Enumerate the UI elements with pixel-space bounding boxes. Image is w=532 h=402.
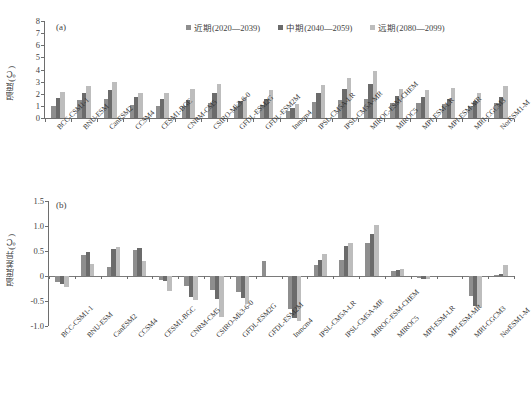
chart-panel-b: 温度差异(℃) (b) BCC-CSM1-1BNU-ESMCanESM2CCSM… <box>0 196 522 402</box>
bar-group <box>152 201 178 326</box>
y-tick-label: -0.5 <box>14 297 44 306</box>
x-tick-mark <box>101 276 102 279</box>
y-tick-label: 1.5 <box>14 197 44 206</box>
bar-group <box>306 21 332 118</box>
bar-segment <box>322 254 326 276</box>
bar <box>167 201 171 326</box>
bar <box>112 82 116 118</box>
x-tick-mark <box>385 276 386 279</box>
x-tick-mark <box>411 276 412 279</box>
y-axis-label-a: 温度(℃) <box>5 66 17 100</box>
bar-segment <box>193 276 197 300</box>
x-tick-mark <box>204 276 205 279</box>
x-tick-marks-b <box>49 276 514 279</box>
chart-panel-a: 温度(℃) (a) 近期(2020—2039)中期(2040—2059)远期(2… <box>0 18 522 168</box>
x-tick-mark <box>359 276 360 279</box>
y-tick-label: 4 <box>22 66 40 75</box>
y-tick-mark <box>41 45 44 46</box>
x-axis-labels-a: BCC-CSM1-1BNU-ESMCanESM2CCSM4CESM1-BGCCN… <box>45 123 514 168</box>
y-tick-label: 0.5 <box>14 247 44 256</box>
y-tick-mark <box>41 118 44 119</box>
y-tick-label: 6 <box>22 41 40 50</box>
bar-group <box>45 21 71 118</box>
bar-group <box>410 21 436 118</box>
bar-group <box>149 21 175 118</box>
bar <box>321 85 325 118</box>
bar <box>322 201 326 326</box>
y-tick-mark <box>45 326 48 327</box>
bar-segment <box>374 225 378 276</box>
y-tick-label: 0 <box>14 272 44 281</box>
bar <box>142 201 146 326</box>
x-tick-mark <box>488 276 489 279</box>
bar-segment <box>503 265 507 276</box>
bar-segment <box>116 247 120 276</box>
x-tick-mark <box>333 276 334 279</box>
clipped-header-text: ·· ···· ·· ··· ···· ·· ·· ·· ·· ·· <box>0 0 522 7</box>
x-tick-mark <box>256 276 257 279</box>
y-tick-label: 0 <box>22 114 40 123</box>
x-tick-mark <box>45 119 46 122</box>
y-tick-label: 3 <box>22 78 40 87</box>
x-tick-mark <box>462 276 463 279</box>
bar-segment <box>142 261 146 276</box>
bar <box>64 201 68 326</box>
y-tick-label: 8 <box>22 17 40 26</box>
y-tick-mark <box>45 301 48 302</box>
bar <box>217 84 221 118</box>
x-tick-mark <box>307 276 308 279</box>
bar-segment <box>348 243 352 276</box>
y-tick-label: -1.0 <box>14 322 44 331</box>
y-tick-mark <box>41 57 44 58</box>
y-tick-mark <box>45 201 48 202</box>
x-tick-mark <box>282 276 283 279</box>
plot-area-b <box>49 201 514 326</box>
x-tick-mark <box>514 276 515 279</box>
x-tick-mark <box>178 276 179 279</box>
y-tick-mark <box>41 21 44 22</box>
x-tick-mark <box>437 276 438 279</box>
x-tick-mark <box>49 276 50 279</box>
y-tick-label: 2 <box>22 90 40 99</box>
bar <box>219 201 223 326</box>
bar <box>426 201 430 326</box>
x-tick-mark <box>152 276 153 279</box>
x-tick-mark <box>75 276 76 279</box>
bar-group <box>101 201 127 326</box>
bar-group <box>127 201 153 326</box>
y-tick-mark <box>45 276 48 277</box>
x-tick-mark <box>230 276 231 279</box>
bar <box>116 201 120 326</box>
bar-segment <box>400 269 404 277</box>
bar-group <box>307 201 333 326</box>
y-tick-mark <box>41 82 44 83</box>
bar-group <box>49 201 75 326</box>
y-tick-mark <box>45 251 48 252</box>
y-tick-mark <box>45 226 48 227</box>
y-tick-label: 1.0 <box>14 222 44 231</box>
y-tick-mark <box>41 106 44 107</box>
bar-segment <box>90 264 94 276</box>
y-tick-label: 7 <box>22 29 40 38</box>
y-tick-mark <box>41 33 44 34</box>
bar <box>425 90 429 118</box>
x-axis-labels-b: BCC-CSM1-1BNU-ESMCanESM2CCSM4CESM1-BGCCN… <box>49 331 514 391</box>
y-tick-mark <box>41 94 44 95</box>
y-tick-mark <box>41 70 44 71</box>
y-tick-label: 1 <box>22 102 40 111</box>
y-tick-label: 5 <box>22 53 40 62</box>
bar-group <box>411 201 437 326</box>
x-tick-mark <box>127 276 128 279</box>
